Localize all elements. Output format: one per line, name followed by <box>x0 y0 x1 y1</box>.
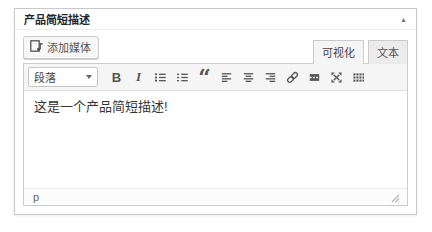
toolbar-toggle-icon <box>351 70 366 85</box>
link-button[interactable] <box>282 67 303 87</box>
format-select[interactable]: 段落 <box>28 67 98 87</box>
add-media-label: 添加媒体 <box>47 39 91 55</box>
short-description-metabox: 产品简短描述 ▲ 添加媒体 可视化 文本 <box>14 8 417 215</box>
align-left-icon <box>219 70 234 85</box>
bullet-list-button[interactable] <box>150 67 171 87</box>
media-icon <box>30 40 43 54</box>
editor-mode-tabs: 可视化 文本 <box>313 40 408 64</box>
numbered-list-icon <box>175 70 190 85</box>
editor-statusbar: p <box>24 188 407 205</box>
numbered-list-button[interactable] <box>172 67 193 87</box>
link-icon <box>285 70 300 85</box>
more-tag-icon <box>307 70 322 85</box>
more-tag-button[interactable] <box>304 67 325 87</box>
italic-button[interactable]: I <box>128 67 149 87</box>
align-right-icon <box>263 70 278 85</box>
collapse-toggle-icon[interactable]: ▲ <box>400 16 407 23</box>
align-right-button[interactable] <box>260 67 281 87</box>
media-buttons-row: 添加媒体 可视化 文本 <box>23 36 408 63</box>
toolbar-toggle-button[interactable] <box>348 67 369 87</box>
editor-paragraph: 这是一个产品简短描述! <box>34 99 168 114</box>
format-select-value: 段落 <box>34 69 56 85</box>
fullscreen-icon <box>329 70 344 85</box>
tab-text[interactable]: 文本 <box>368 40 408 64</box>
chevron-down-icon <box>86 75 92 79</box>
metabox-header[interactable]: 产品简短描述 ▲ <box>15 9 416 30</box>
element-path-label: p <box>33 191 39 203</box>
add-media-button[interactable]: 添加媒体 <box>23 36 99 59</box>
editor-toolbar: 段落 B I <box>24 64 407 91</box>
align-left-button[interactable] <box>216 67 237 87</box>
bold-button[interactable]: B <box>106 67 127 87</box>
editor-content[interactable]: 这是一个产品简短描述! <box>24 91 407 188</box>
tinymce-editor: 段落 B I <box>23 63 408 206</box>
resize-grip-icon[interactable] <box>389 192 400 203</box>
align-center-icon <box>241 70 256 85</box>
bullet-list-icon <box>153 70 168 85</box>
metabox-title: 产品简短描述 <box>24 11 90 27</box>
tab-visual[interactable]: 可视化 <box>313 40 364 64</box>
fullscreen-button[interactable] <box>326 67 347 87</box>
metabox-body: 添加媒体 可视化 文本 段落 B I <box>15 30 416 214</box>
align-center-button[interactable] <box>238 67 259 87</box>
blockquote-button[interactable]: “ <box>194 67 215 87</box>
